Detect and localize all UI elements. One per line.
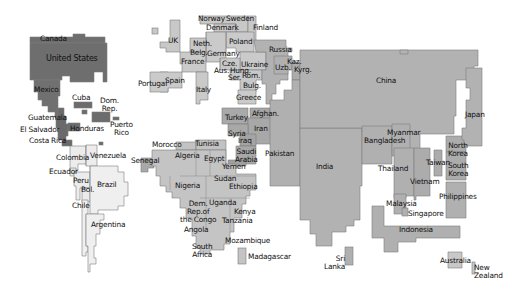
label-nigeria: Nigeria	[175, 182, 200, 190]
label-south-korea: South Korea	[448, 162, 468, 178]
label-canada: Canada	[40, 35, 67, 43]
label-brazil: Brazil	[97, 181, 116, 189]
label-iran: Iran	[254, 125, 268, 133]
label-mexico: Mexico	[34, 86, 59, 94]
label-germany: Germany	[207, 50, 240, 58]
label-malaysia: Malaysia	[386, 200, 417, 208]
label-italy: Italy	[196, 86, 211, 94]
region-mongolia-notch	[400, 50, 408, 54]
region-madagascar	[238, 248, 246, 264]
label-bangladesh: Bangladesh	[364, 137, 405, 145]
label-bulgaria: Bulg.	[243, 82, 261, 90]
label-tanzania: Tanzania	[222, 217, 253, 225]
region-jamaica	[82, 110, 87, 114]
region-cuba	[74, 102, 92, 108]
label-russia: Russia	[269, 46, 292, 54]
label-uganda: Uganda	[209, 199, 236, 207]
label-guatemala: Guatemala	[28, 114, 67, 122]
label-turkey: Turkey	[225, 114, 248, 122]
label-afghan: Afghan.	[252, 110, 279, 118]
label-puerto-rico: Puerto Rico	[110, 121, 133, 137]
label-netherlands: Neth.	[193, 40, 212, 48]
region-india	[300, 128, 362, 246]
label-kenya: Kenya	[234, 208, 256, 216]
region-dom-rep	[92, 112, 110, 122]
label-dom-rep: Dom. Rep.	[100, 97, 119, 113]
label-romania: Rom.	[242, 72, 260, 80]
label-portugal: Portugal	[138, 80, 167, 88]
label-ecuador: Ecuador	[49, 168, 78, 176]
label-ethiopia: Ethiopia	[229, 183, 258, 191]
label-el-salvador: El Salvador	[20, 126, 59, 134]
label-new-zealand: New Zealand	[474, 264, 503, 280]
label-kyrg: Kyrg.	[294, 66, 312, 74]
label-sri-lanka: Sri Lanka	[324, 255, 345, 271]
label-vietnam: Vietnam	[410, 178, 439, 186]
label-united-states: United States	[46, 55, 98, 63]
region-thailand	[394, 148, 414, 198]
label-chile: Chile	[72, 202, 90, 210]
label-india: India	[316, 163, 333, 171]
label-thailand: Thailand	[378, 165, 408, 173]
label-tunisia: Tunisia	[195, 140, 219, 148]
label-france: France	[181, 58, 204, 66]
label-greece: Greece	[236, 94, 261, 102]
label-taiwan: Taiwan	[426, 159, 450, 167]
label-peru: Peru	[73, 177, 89, 185]
region-brazil	[90, 166, 128, 214]
label-senegal: Senegal	[131, 157, 159, 165]
label-colombia: Colombia	[56, 154, 89, 162]
label-singapore: Singapore	[408, 210, 444, 218]
label-china: China	[376, 77, 396, 85]
region-sri-lanka	[345, 247, 353, 265]
label-honduras: Honduras	[70, 125, 104, 133]
label-australia: Australia	[440, 257, 471, 265]
label-serbia: Ser.	[228, 74, 241, 82]
label-philippines: Philippines	[439, 193, 477, 201]
label-algeria: Algeria	[175, 152, 200, 160]
label-mozambique: Mozambique	[225, 237, 270, 245]
label-indonesia: Indonesia	[399, 226, 433, 234]
label-ukraine: Ukraine	[241, 61, 268, 69]
label-poland: Poland	[229, 38, 252, 46]
region-iceland	[152, 28, 158, 34]
label-south-africa: South Africa	[192, 243, 212, 259]
label-argentina: Argentina	[91, 221, 125, 229]
region-vietnam	[414, 148, 430, 200]
label-uk: UK	[168, 37, 178, 45]
label-cuba: Cuba	[72, 94, 90, 102]
region-pakistan	[270, 80, 300, 186]
label-belgium: Belg.	[190, 49, 208, 57]
label-morocco: Morocco	[152, 141, 182, 149]
label-costa-rica: Costa Rica	[29, 137, 66, 145]
region-panama	[99, 142, 103, 145]
label-egypt: Egypt	[204, 155, 224, 163]
label-north-korea: North Korea	[448, 142, 468, 158]
label-pakistan: Pakistan	[265, 150, 294, 158]
label-iraq: Iraq	[238, 137, 252, 145]
label-yemen: Yemen	[222, 163, 246, 171]
label-uzb: Uzb.	[275, 64, 291, 72]
label-japan: Japan	[465, 111, 485, 119]
label-sweden: Sweden	[226, 15, 254, 23]
label-norway: Norway	[198, 15, 225, 23]
label-angola: Angola	[184, 226, 208, 234]
label-austria: Aus.	[214, 67, 229, 75]
cartogram-map	[0, 0, 517, 293]
label-denmark: Denmark	[206, 24, 239, 32]
label-spain: Spain	[165, 77, 185, 85]
label-bolivia: Bol.	[81, 186, 94, 194]
label-venezuela: Venezuela	[90, 152, 126, 160]
label-finland: Finland	[253, 24, 278, 32]
label-madagascar: Madagascar	[248, 253, 291, 261]
